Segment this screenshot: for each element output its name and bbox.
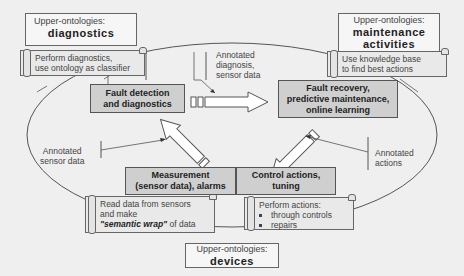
scroll-text-rest: of data — [167, 219, 195, 229]
process-text-line: Fault recovery, — [287, 83, 390, 94]
ontology-title-line1: maintenance — [339, 26, 439, 38]
note-line: sensor data — [40, 156, 84, 166]
note-line: Annotated — [40, 146, 84, 156]
scroll-text-line: "semantic wrap" of data — [100, 219, 210, 229]
process-fault-recovery: Fault recovery, predictive maintenance, … — [278, 80, 398, 118]
note-line: diagnosis, — [216, 60, 260, 70]
note-annotated-diagnosis: Annotated diagnosis, sensor data — [216, 50, 260, 80]
scroll-use-knowledge-base: Use knowledge base to find best actions — [327, 51, 447, 77]
process-text-line: and diagnostics — [103, 99, 172, 110]
note-line: sensor data — [216, 70, 260, 80]
scroll-text-line: Perform diagnostics, — [35, 53, 140, 63]
scroll-text-line: Use knowledge base — [342, 54, 442, 64]
ontology-title: devices — [186, 255, 278, 267]
scroll-text-line: use ontology as classifier — [35, 63, 140, 73]
ontology-box-maintenance: Upper-ontologies: maintenance activities — [338, 13, 440, 53]
ontology-box-devices: Upper-ontologies: devices — [185, 243, 279, 268]
arrow-right-icon — [191, 92, 268, 112]
ontology-label: Upper-ontologies: — [186, 244, 278, 255]
process-text-line: Fault detection — [103, 88, 172, 99]
note-line: actions — [375, 158, 414, 168]
scroll-read-sensor-data: Read data from sensors and make "semanti… — [85, 196, 215, 233]
process-fault-detection: Fault detection and diagnostics — [90, 84, 185, 113]
process-text-line: Measurement — [135, 170, 226, 181]
scroll-text-line: and make — [100, 209, 210, 219]
ontology-title-line2: activities — [339, 38, 439, 50]
scroll-perform-actions: Perform actions: through controls repair… — [244, 197, 354, 230]
process-text-line: (sensor data), alarms — [135, 181, 226, 192]
scroll-text-line: Perform actions: — [259, 200, 349, 210]
arrow-up-left-icon — [154, 113, 213, 172]
note-annotated-actions: Annotated actions — [375, 148, 414, 168]
ontology-label: Upper-ontologies: — [339, 14, 439, 26]
process-text-line: online learning — [287, 105, 390, 116]
process-text-line: tuning — [252, 181, 321, 192]
process-measurement: Measurement (sensor data), alarms — [125, 167, 236, 195]
scroll-text-line: to find best actions — [342, 64, 442, 74]
note-line: Annotated — [375, 148, 414, 158]
ontology-label: Upper-ontologies: — [26, 14, 136, 27]
bullet-item: repairs — [271, 220, 349, 230]
scroll-perform-diagnostics: Perform diagnostics, use ontology as cla… — [20, 50, 145, 76]
process-text-line: Control actions, — [252, 170, 321, 181]
ontology-title: diagnostics — [26, 27, 136, 39]
scroll-text-line: Read data from sensors — [100, 199, 210, 209]
ontology-box-diagnostics: Upper-ontologies: diagnostics — [25, 13, 137, 46]
process-control-actions: Control actions, tuning — [236, 167, 336, 195]
actions-bullet-list: through controls repairs — [259, 210, 349, 230]
bullet-item: through controls — [271, 210, 349, 220]
note-line: Annotated — [216, 50, 260, 60]
process-text-line: predictive maintenance, — [287, 94, 390, 105]
semantic-wrap-emphasis: "semantic wrap" — [100, 219, 167, 229]
note-annotated-sensor-data: Annotated sensor data — [40, 146, 84, 166]
